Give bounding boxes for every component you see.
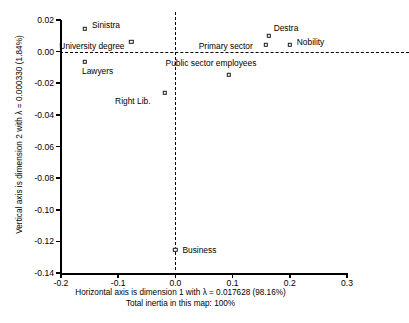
data-point-marker[interactable] [226, 72, 230, 76]
horizontal-zero-line [60, 52, 409, 53]
x-tick-label: 0.2 [284, 278, 296, 288]
x-tick-label: 0.3 [341, 278, 353, 288]
x-tick-label: 0.1 [227, 278, 239, 288]
data-point-label: Nobility [297, 37, 324, 47]
total-inertia-caption: Total inertia in this map: 100% [0, 299, 361, 308]
data-point-marker[interactable] [173, 248, 177, 252]
data-point-marker[interactable] [129, 39, 133, 43]
data-point-label: Lawyers [82, 66, 113, 76]
data-point-marker[interactable] [83, 26, 87, 30]
y-tick-label: -0.02 [34, 78, 54, 88]
y-tick-mark [56, 177, 61, 179]
x-tick-label: -0.1 [111, 278, 126, 288]
data-point-marker[interactable] [264, 42, 268, 46]
data-point-label: Business [182, 245, 216, 255]
data-point-label: University degree [59, 41, 124, 51]
y-tick-mark [56, 82, 61, 84]
data-point-marker[interactable] [266, 34, 270, 38]
y-tick-label: -0.14 [34, 268, 54, 278]
data-point-label: Public sector employees [166, 58, 257, 68]
y-tick-label: -0.08 [34, 173, 54, 183]
data-point-marker[interactable] [288, 42, 292, 46]
data-point-marker[interactable] [163, 91, 167, 95]
x-tick-label: 0.0 [169, 278, 181, 288]
plot-area: 0.020.00-0.02-0.04-0.06-0.08-0.10-0.12-0… [61, 20, 347, 273]
y-tick-mark [56, 146, 61, 148]
data-point-label: Right Lib. [115, 96, 150, 106]
y-tick-label: -0.06 [34, 142, 54, 152]
y-tick-mark [56, 19, 61, 21]
y-tick-label: 0.00 [37, 47, 54, 57]
y-tick-mark [56, 241, 61, 243]
y-tick-mark [56, 209, 61, 211]
vertical-zero-line [175, 12, 176, 270]
y-tick-mark [56, 114, 61, 116]
y-tick-label: -0.12 [34, 236, 54, 246]
data-point-label: Primary sector [199, 41, 253, 51]
y-tick-label: -0.04 [34, 110, 54, 120]
data-point-marker[interactable] [83, 60, 87, 64]
y-tick-label: 0.02 [37, 15, 54, 25]
data-point-label: Sinistra [92, 20, 120, 30]
x-tick-label: -0.2 [54, 278, 69, 288]
data-point-label: Destra [274, 23, 299, 33]
y-axis-title: Vertical axis is dimension 2 with λ = 0.… [15, 20, 24, 250]
x-axis-title: Horizontal axis is dimension 1 with λ = … [0, 288, 361, 297]
y-tick-label: -0.10 [34, 205, 54, 215]
x-axis-line [61, 273, 348, 275]
